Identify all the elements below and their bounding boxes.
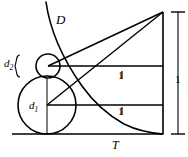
d2-brace-icon <box>15 55 20 77</box>
unit-label-lower: 1 <box>118 106 124 117</box>
tangent-label-T: T <box>112 139 119 151</box>
large-circle-diameter-label: d1 <box>29 100 38 114</box>
large-circle-diameter-subscript: 1 <box>35 105 39 114</box>
figure-canvas <box>0 0 188 157</box>
unit-label-upper: 1 <box>118 70 124 81</box>
geometry-figure: D T d2 d1 1 1 1 <box>0 0 188 157</box>
small-circle-diameter-label: d2 <box>4 58 13 72</box>
small-circle-diameter-subscript: 2 <box>10 63 14 72</box>
unit-label-right: 1 <box>175 74 181 85</box>
curve-label-D: D <box>56 13 65 26</box>
